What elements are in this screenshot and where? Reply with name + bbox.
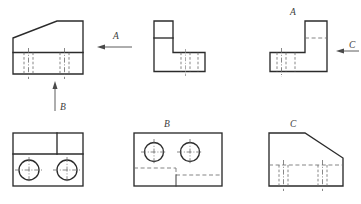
drawing-sheet: A B A <box>0 0 361 204</box>
view-a-label: A <box>289 7 296 17</box>
arrow-c-label: C <box>349 40 356 50</box>
view-a-outline <box>270 21 327 72</box>
arrow-a-head <box>97 44 105 49</box>
arrow-b: B <box>53 81 67 112</box>
view-c-outline <box>269 133 343 186</box>
plan-view <box>13 133 83 186</box>
view-c: C <box>269 119 343 191</box>
front-view <box>13 21 83 79</box>
orthographic-drawing-canvas: A B A <box>0 0 361 204</box>
view-c-label: C <box>290 119 297 129</box>
view-a: A <box>270 7 327 77</box>
arrow-a-label: A <box>112 31 119 41</box>
side-view-l <box>154 21 205 76</box>
arrow-a: A <box>97 31 132 50</box>
arrow-b-head <box>53 81 58 89</box>
view-b-label: B <box>164 119 170 129</box>
front-view-outline <box>13 21 83 74</box>
arrow-c-head <box>336 48 344 53</box>
view-b: B <box>134 119 222 186</box>
side-view-outline <box>154 21 205 72</box>
arrow-c: C <box>336 40 359 54</box>
arrow-b-label: B <box>60 102 66 112</box>
